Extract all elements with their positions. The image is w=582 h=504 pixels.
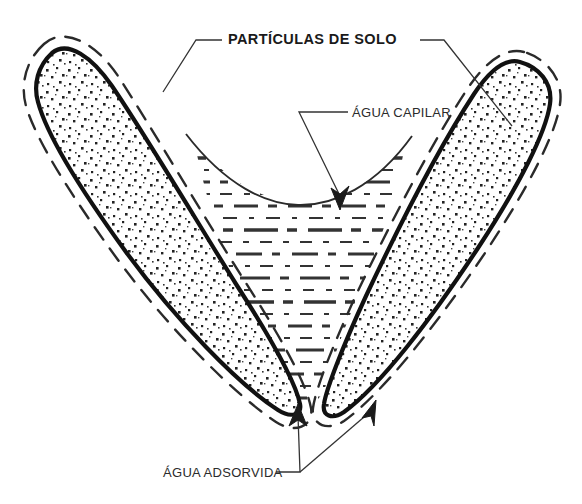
- label-agua-capilar: ÁGUA CAPILAR: [352, 105, 451, 120]
- label-agua-adsorvida: ÁGUA ADSORVIDA: [163, 465, 283, 480]
- label-particulas-de-solo: PARTÍCULAS DE SOLO: [228, 31, 397, 47]
- soil-capillary-water-diagram: PARTÍCULAS DE SOLO ÁGUA CAPILAR ÁGUA ADS…: [0, 0, 582, 504]
